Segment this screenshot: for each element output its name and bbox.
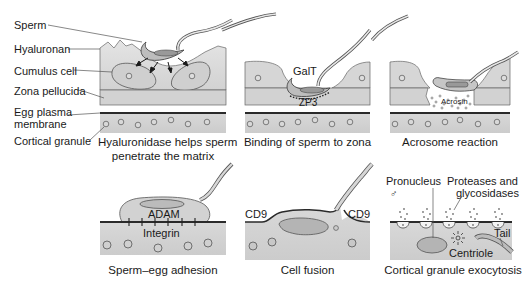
label-cortical-granule: Cortical granule (14, 135, 91, 147)
caption-acrosome: Acrosome reaction (390, 136, 510, 149)
cumulus-matrix-right (332, 62, 370, 88)
label-proteases-line2: glycosidases (456, 187, 519, 199)
label-proteases-line1: Proteases and (447, 175, 518, 187)
caption-exocytosis: Cortical granule exocytosis (382, 264, 524, 277)
caption-fusion: Cell fusion (245, 264, 370, 277)
label-cd9-left: CD9 (245, 208, 267, 220)
label-zp3: ZP3 (299, 97, 317, 109)
caption-binding: Binding of sperm to zona (240, 136, 375, 149)
caption-hyaluronidase-line2: penetrate the matrix (98, 150, 228, 163)
centriole (334, 226, 339, 231)
label-acrosin: Acrosin (441, 96, 468, 108)
label-zona-pellucida: Zona pellucida (14, 85, 86, 97)
caption-adhesion: Sperm–egg adhesion (98, 264, 228, 277)
label-egg-plasma-membrane-line2: membrane (14, 118, 67, 130)
panel-hyaluronidase (48, 20, 232, 140)
cumulus-matrix (390, 61, 430, 88)
label-pronucleus: Pronucleus (386, 175, 441, 187)
zona-pellucida (100, 90, 226, 105)
label-sperm: Sperm (14, 19, 46, 31)
panel-acrosome (372, 16, 518, 133)
label-integrin: Integrin (143, 227, 180, 239)
label-adam: ADAM (148, 208, 180, 220)
label-tail: Tail (494, 227, 511, 239)
pronucleus (417, 237, 447, 253)
caption-hyaluronidase-line1: Hyaluronidase helps sperm (98, 136, 228, 149)
sperm-tail-upper (372, 16, 408, 40)
label-galt: GalT (293, 65, 317, 77)
egg-cytoplasm (390, 113, 510, 133)
label-hyaluronan: Hyaluronan (14, 43, 70, 55)
label-male-symbol: ♂ (390, 188, 398, 200)
label-cd9-right: CD9 (348, 208, 370, 220)
label-cumulus-cell: Cumulus cell (14, 65, 77, 77)
label-egg-plasma-membrane-line1: Egg plasma (14, 106, 72, 118)
label-centriole: Centriole (449, 247, 493, 259)
